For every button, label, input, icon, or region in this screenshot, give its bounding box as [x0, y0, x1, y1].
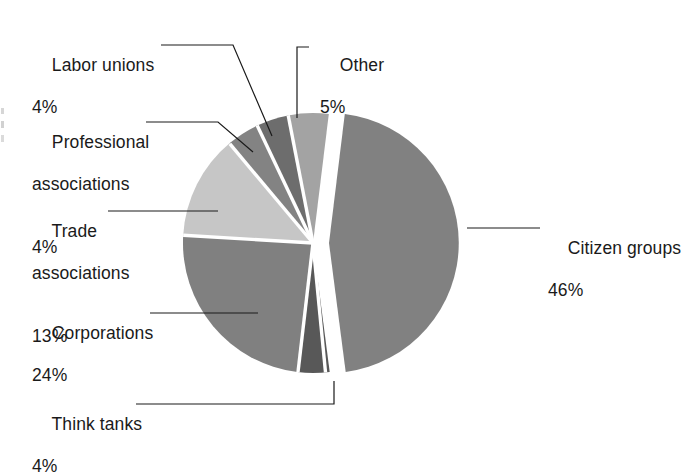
leader-line-other: [297, 47, 309, 118]
callout-labor-unions-name: Labor unions: [52, 55, 154, 75]
callout-other-pct: 5%: [320, 97, 384, 118]
callout-think-tanks: Think tanks 4%: [32, 393, 142, 476]
callout-professional-associations-name-line1: Professional: [52, 132, 150, 152]
callout-trade-associations-name-line2: associations: [32, 263, 130, 284]
callout-other: Other 5%: [320, 34, 384, 160]
callout-citizen-groups-pct: 46%: [548, 280, 681, 301]
callout-corporations-name: Corporations: [52, 323, 153, 343]
callout-think-tanks-pct: 4%: [32, 456, 142, 476]
callout-corporations-pct: 24%: [32, 365, 153, 386]
callout-citizen-groups-name: Citizen groups: [568, 238, 681, 258]
callout-professional-associations-name-line2: associations: [32, 174, 149, 195]
leader-line-think-tanks: [136, 381, 334, 404]
callout-trade-associations-name-line1: Trade: [52, 221, 98, 241]
callout-citizen-groups: Citizen groups 46%: [548, 217, 681, 343]
pie-slice-corporations[interactable]: [183, 235, 313, 372]
callout-think-tanks-name: Think tanks: [52, 414, 143, 434]
callout-other-name: Other: [340, 55, 384, 75]
